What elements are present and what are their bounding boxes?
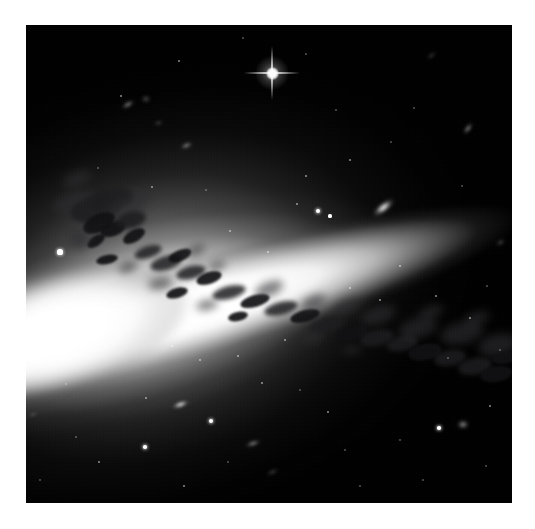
companion-galaxy-edge-on [369, 194, 397, 219]
background-galaxy-upper-left-2 [140, 94, 152, 104]
background-galaxy-far-left [26, 410, 40, 419]
background-galaxy-top-right [424, 49, 437, 61]
bright-star-core [266, 67, 279, 80]
galaxy-image-panel [26, 25, 512, 503]
page-root [0, 0, 535, 529]
background-galaxy-lower-right [456, 419, 470, 430]
background-galaxy-lower-left [170, 397, 190, 410]
background-galaxy-mid-left [152, 119, 164, 127]
background-galaxy-right-edge [493, 235, 508, 248]
background-galaxy-upper-mid [178, 139, 195, 151]
background-galaxy-bottom [264, 466, 280, 478]
bright-star-with-diffraction-spikes [244, 45, 300, 101]
background-galaxy-right-upper [460, 120, 475, 137]
background-galaxy-lower-mid [243, 437, 262, 449]
background-galaxy-upper-left [119, 97, 136, 111]
